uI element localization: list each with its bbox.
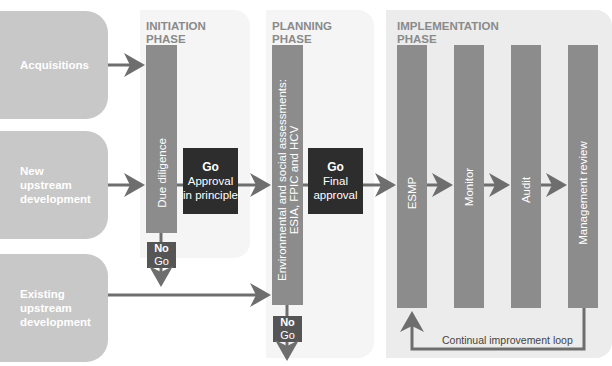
arrow-improvement-loop bbox=[412, 308, 584, 349]
flow-arrows bbox=[0, 0, 612, 366]
